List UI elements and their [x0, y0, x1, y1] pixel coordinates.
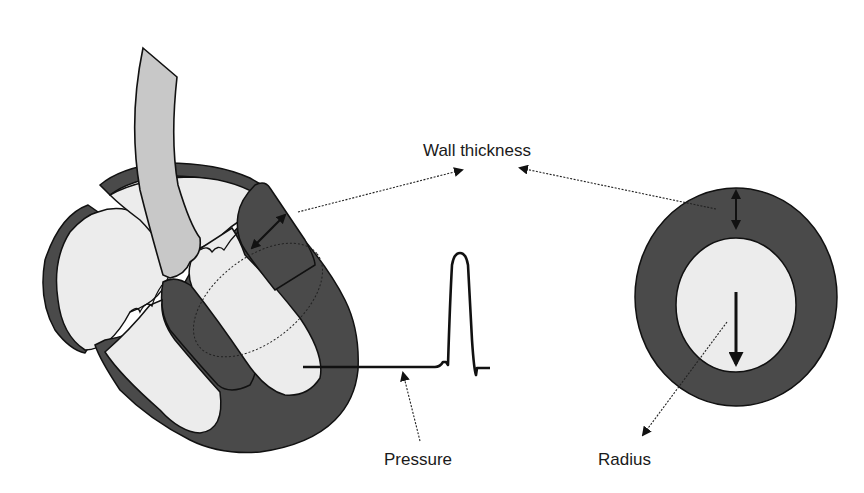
pressure-label: Pressure	[384, 451, 452, 468]
diagram-svg	[0, 0, 864, 493]
diagram-canvas: Wall thickness Pressure Radius	[0, 0, 864, 493]
radius-label: Radius	[598, 451, 651, 468]
wall-thickness-leader-left	[298, 170, 462, 212]
lv-cross-section	[635, 188, 837, 406]
heart-illustration	[43, 48, 358, 453]
pressure-leader	[403, 373, 420, 441]
wall-thickness-label: Wall thickness	[423, 142, 531, 159]
